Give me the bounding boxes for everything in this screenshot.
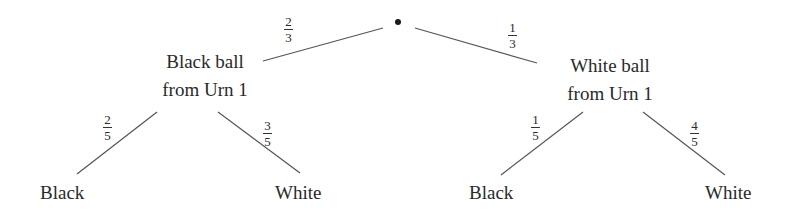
prob-root-white-ball: 1 3 xyxy=(508,21,517,50)
node-black-ball-urn1: Black ball from Urn 1 xyxy=(146,48,264,104)
prob-white-ball-white: 4 5 xyxy=(690,119,699,148)
node-label-line1: Black ball xyxy=(146,48,264,76)
edge-black-ball-to-black xyxy=(77,112,157,174)
node-white-ball-urn1: White ball from Urn 1 xyxy=(551,52,669,108)
leaf-black-2: Black xyxy=(469,182,513,204)
leaf-white-1: White xyxy=(275,182,321,204)
prob-root-black-ball: 2 3 xyxy=(284,15,293,44)
prob-black-ball-black: 2 5 xyxy=(103,113,112,142)
edge-black-ball-to-white xyxy=(218,112,300,173)
prob-white-ball-black: 1 5 xyxy=(531,113,540,142)
leaf-white-2: White xyxy=(705,182,751,204)
node-label-line2: from Urn 1 xyxy=(146,76,264,104)
node-label-line2: from Urn 1 xyxy=(551,80,669,108)
edge-white-ball-to-white xyxy=(643,112,725,175)
prob-black-ball-white: 3 5 xyxy=(263,119,272,148)
edge-root-to-black-ball xyxy=(263,28,383,61)
leaf-black-1: Black xyxy=(40,182,84,204)
edge-root-to-white-ball xyxy=(415,28,537,63)
node-label-line1: White ball xyxy=(551,52,669,80)
tree-edges xyxy=(0,0,791,215)
edge-white-ball-to-black xyxy=(501,112,583,175)
root-node-dot xyxy=(395,19,401,25)
